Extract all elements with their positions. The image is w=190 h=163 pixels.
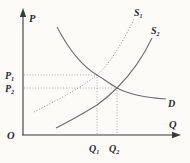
quantity-tick-q1: Q1 — [89, 143, 99, 155]
demand-curve-label: D — [167, 98, 175, 109]
q1-base: Q — [89, 143, 96, 154]
x-axis-label: Q — [169, 119, 177, 130]
price-tick-p2: P2 — [5, 83, 14, 95]
diagram-canvas: P Q O P1 P2 Q1 Q2 S1 S2 D — [0, 0, 190, 163]
supply-curve-s2 — [56, 38, 152, 128]
q2-sub: 2 — [115, 149, 119, 155]
d-base: D — [167, 98, 175, 109]
s1-curve-label: S1 — [134, 7, 143, 19]
s2-sub: 2 — [156, 31, 160, 37]
p1-sub: 1 — [11, 76, 14, 82]
x-axis-arrow — [172, 132, 181, 138]
equilibrium-guides — [24, 75, 117, 134]
price-tick-p1: P1 — [5, 70, 14, 82]
quantity-tick-q2: Q2 — [109, 143, 119, 155]
s1-sub: 1 — [140, 13, 143, 19]
p2-sub: 2 — [10, 89, 14, 95]
y-axis-arrow — [20, 8, 26, 17]
axes — [20, 8, 181, 138]
origin-label: O — [7, 130, 15, 141]
q1-sub: 1 — [96, 149, 99, 155]
supply-demand-diagram: P Q O P1 P2 Q1 Q2 S1 S2 D — [0, 0, 190, 163]
q2-base: Q — [109, 143, 116, 154]
s2-curve-label: S2 — [151, 25, 160, 37]
y-axis-label: P — [29, 13, 36, 24]
